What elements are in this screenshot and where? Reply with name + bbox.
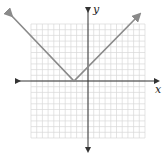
y-axis-label: y: [93, 3, 99, 16]
coordinate-plane: [0, 0, 166, 157]
x-axis-label: x: [155, 83, 161, 96]
